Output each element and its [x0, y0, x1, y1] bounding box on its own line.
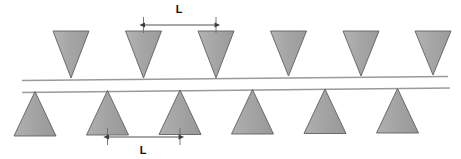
upper-boundary-line	[22, 77, 448, 81]
figure-canvas: L L	[0, 0, 461, 159]
triangle-down-3	[198, 31, 234, 78]
triangle-up-6	[377, 89, 419, 134]
diagram-svg: L L	[0, 0, 461, 159]
triangle-up-5	[304, 89, 346, 134]
triangle-down-5	[343, 31, 379, 76]
lower-triangle-row	[14, 89, 419, 137]
triangle-up-3	[159, 90, 201, 135]
upper-period-label: L	[176, 3, 183, 15]
triangle-up-4	[232, 90, 274, 135]
lower-period-label: L	[140, 144, 147, 156]
lower-boundary-line	[22, 88, 450, 93]
upper-triangle-row	[53, 31, 451, 78]
upper-period-dimension: L	[144, 3, 217, 33]
triangle-down-2	[126, 31, 162, 78]
triangle-down-4	[271, 31, 307, 76]
triangle-down-6	[415, 31, 451, 75]
triangle-down-1	[53, 31, 89, 78]
triangle-up-1	[14, 92, 56, 137]
